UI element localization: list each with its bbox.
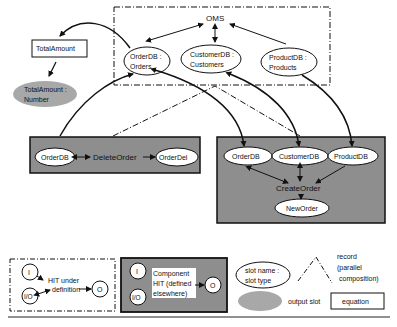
- legend-hud-io-arrow: [38, 290, 50, 294]
- total-amount-output-name: TotalAmount :: [24, 86, 67, 93]
- delete-order-input-label: OrderDB: [41, 154, 69, 161]
- legend-hud-line2: definition: [52, 286, 80, 293]
- delete-order-output-slot-orderdel[interactable]: OrderDel: [156, 148, 198, 166]
- legend-hud-in-label: I: [28, 269, 30, 276]
- legend-equation-label: equation: [342, 298, 369, 306]
- legend-slot-ellipse: [236, 262, 290, 288]
- legend-record-line3: composition): [339, 275, 379, 283]
- legend-record-line2: (parallel: [337, 264, 362, 272]
- create-order-input-orderdb-label: OrderDB: [232, 153, 260, 160]
- oms-slot-customerdb[interactable]: CustomerDB : Customers: [181, 45, 241, 73]
- legend-slot-line2: slot type: [245, 277, 271, 285]
- oms-slot-orderdb-name: OrderDB :: [130, 53, 162, 60]
- legend-ch-line1: Component: [153, 270, 189, 278]
- legend-hud-line1: HIT under: [48, 277, 80, 284]
- delete-order-title: DeleteOrder: [93, 153, 137, 162]
- total-amount-arrow: [49, 62, 56, 76]
- legend-ch-io-label: I/O: [132, 294, 141, 301]
- delete-order-input-slot-orderdb[interactable]: OrderDB: [35, 148, 75, 166]
- legend-ch-line2: HIT (defined: [153, 280, 191, 288]
- oms-slot-customerdb-name: CustomerDB :: [190, 51, 234, 58]
- hit-diagram: OMS OrderDB : Orders CustomerDB : Custom…: [0, 0, 397, 327]
- legend-output-slot-ellipse: [238, 291, 282, 311]
- legend-hud-out-label: O: [97, 286, 103, 293]
- oms-slot-productdb[interactable]: ProductDB : Products: [261, 48, 317, 76]
- create-order-input-customerdb-label: CustomerDB: [279, 153, 319, 160]
- legend-record-line1: record: [337, 253, 357, 260]
- legend-ch-out-label: O: [210, 282, 216, 289]
- oms-title: OMS: [206, 14, 224, 23]
- oms-orderdb-to-createorder-orderdb-arrow: [155, 70, 244, 146]
- legend-ch-in-label: I: [136, 268, 138, 275]
- create-order-output-slot-neworder[interactable]: NewOrder: [275, 199, 329, 217]
- create-order-input-slot-productdb[interactable]: ProductDB: [328, 147, 378, 165]
- legend-hud-in-arrow: [37, 276, 43, 280]
- create-order-input-slot-orderdb[interactable]: OrderDB: [224, 147, 272, 165]
- create-order-output-label: NewOrder: [286, 205, 319, 212]
- oms-productdb-to-createorder-productdb-arrow: [302, 75, 352, 146]
- oms-slot-productdb-name: ProductDB :: [269, 54, 307, 61]
- legend-slot-line1: slot name :: [245, 267, 279, 274]
- legend-hud-io-label: I/O: [24, 293, 33, 300]
- oms-orderdb-arrow: [150, 24, 203, 40]
- total-amount-output-slot[interactable]: TotalAmount : Number: [13, 81, 77, 107]
- legend-ch-in-slot: [130, 263, 146, 279]
- legend-hud-in-slot: [22, 264, 38, 280]
- deleteorder-to-oms-orderdb-arrow: [60, 74, 133, 136]
- oms-slot-customerdb-type: Customers: [190, 61, 224, 68]
- oms-slot-productdb-type: Products: [269, 64, 297, 71]
- oms-productdb-arrow: [230, 24, 286, 44]
- legend-record-connector: [298, 257, 332, 283]
- legend-output-slot-label: output slot: [288, 298, 320, 306]
- oms-slot-orderdb-type: Orders: [130, 63, 152, 70]
- legend-ch-line3: elsewhere): [153, 290, 187, 298]
- total-amount-equation-label: TotalAmount: [36, 45, 75, 52]
- oms-slot-orderdb[interactable]: OrderDB : Orders: [124, 47, 170, 75]
- create-order-input-slot-customerdb[interactable]: CustomerDB: [272, 147, 328, 165]
- create-order-input-productdb-label: ProductDB: [334, 153, 368, 160]
- create-order-title: CreateOrder: [276, 184, 321, 193]
- total-amount-output-type: Number: [24, 96, 50, 103]
- delete-order-output-label: OrderDel: [159, 154, 188, 161]
